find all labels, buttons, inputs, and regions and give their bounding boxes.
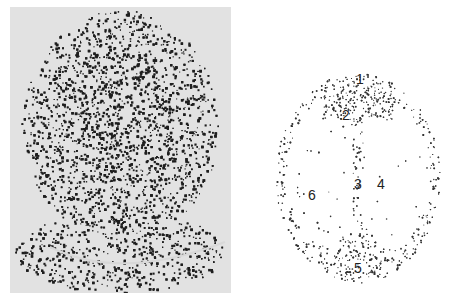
label-5: 5 bbox=[354, 261, 362, 275]
label-1: 1 bbox=[356, 72, 364, 86]
stipple-diagram: 1 2 3 4 5 6 bbox=[270, 60, 450, 290]
stipple-head-image bbox=[10, 7, 231, 293]
scintigram-photo bbox=[10, 7, 231, 293]
head-outline-diagram bbox=[270, 60, 450, 290]
label-3: 3 bbox=[354, 177, 362, 191]
label-6: 6 bbox=[308, 188, 316, 202]
label-4: 4 bbox=[377, 177, 385, 191]
label-2: 2 bbox=[342, 108, 350, 122]
